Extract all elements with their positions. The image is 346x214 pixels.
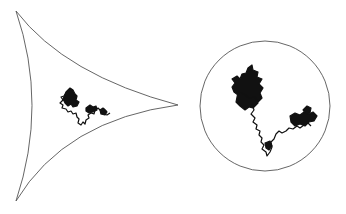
figure-canvas [0,0,346,214]
figure [0,0,346,214]
background [0,0,346,214]
